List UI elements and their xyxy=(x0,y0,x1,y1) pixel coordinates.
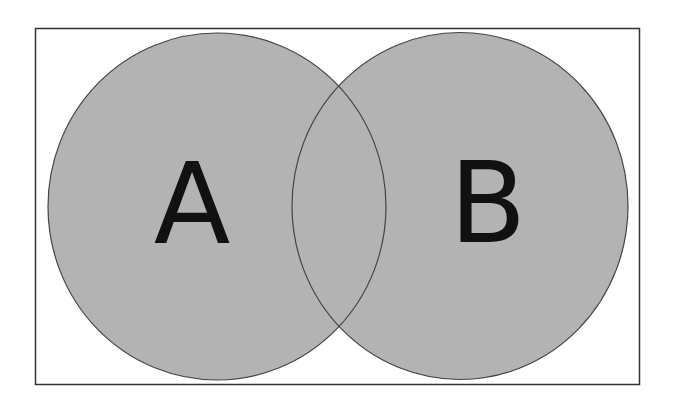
set-a-label: A xyxy=(154,139,231,269)
set-b-label: B xyxy=(450,138,527,268)
venn-diagram: A B xyxy=(0,0,674,401)
